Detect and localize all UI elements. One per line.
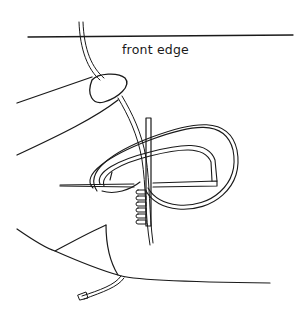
thread-tail	[78, 276, 124, 300]
needle	[60, 181, 217, 187]
fabric-fold	[17, 225, 270, 283]
diagram-canvas: front edge	[0, 0, 307, 313]
front-edge-label: front edge	[122, 42, 189, 57]
front-edge-line	[28, 35, 293, 37]
thumb	[17, 77, 118, 155]
fingernail-icon	[90, 74, 127, 102]
blanket-stitches	[136, 190, 146, 224]
thread-loop	[90, 125, 238, 210]
